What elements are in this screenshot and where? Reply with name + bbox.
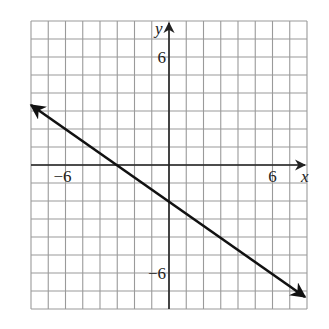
y-tick-label: −6 [148,264,166,283]
x-tick-label: −6 [53,167,71,186]
coordinate-plane: −666−6 x y [0,0,329,329]
axes [31,23,305,309]
y-axis-label: y [153,19,163,38]
y-tick-label: 6 [158,48,167,67]
x-axis-label: x [300,167,309,186]
x-tick-label: 6 [268,167,277,186]
